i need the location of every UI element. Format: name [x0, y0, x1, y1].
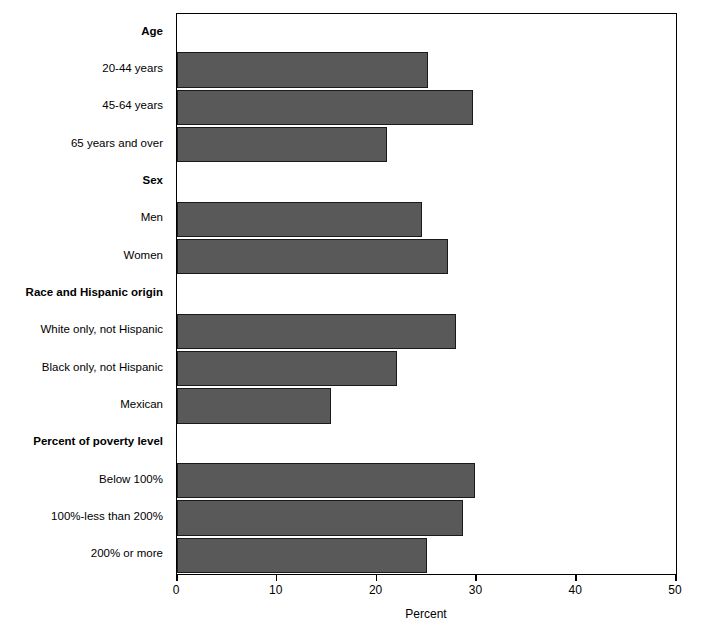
x-axis-tick — [475, 574, 477, 581]
bar — [177, 202, 422, 237]
group-header-label: Race and Hispanic origin — [0, 286, 168, 299]
category-label: Mexican — [0, 398, 168, 411]
plot-area — [176, 13, 677, 575]
category-label: 65 years and over — [0, 137, 168, 150]
category-label: Black only, not Hispanic — [0, 361, 168, 374]
category-label: 45-64 years — [0, 99, 168, 112]
bar — [177, 538, 427, 573]
group-header-label: Percent of poverty level — [0, 435, 168, 448]
x-axis-tick-label: 50 — [655, 583, 695, 597]
bar — [177, 463, 475, 498]
x-axis-tick — [675, 574, 677, 581]
group-header-label: Sex — [0, 174, 168, 187]
bar — [177, 500, 463, 535]
bar — [177, 52, 428, 87]
x-axis-tick — [376, 574, 378, 581]
bar — [177, 127, 387, 162]
bar — [177, 239, 448, 274]
group-header-label: Age — [0, 25, 168, 38]
x-axis-tick-label: 10 — [256, 583, 296, 597]
x-axis-tick-label: 30 — [455, 583, 495, 597]
bar — [177, 314, 456, 349]
x-axis-title: Percent — [176, 607, 676, 621]
bar — [177, 351, 397, 386]
x-axis-tick-label: 20 — [356, 583, 396, 597]
category-label: White only, not Hispanic — [0, 323, 168, 336]
bar-chart: Age20-44 years45-64 years65 years and ov… — [0, 0, 701, 638]
bar — [177, 388, 331, 423]
category-label: Women — [0, 249, 168, 262]
category-label: 100%-less than 200% — [0, 510, 168, 523]
x-axis: Percent 01020304050 — [176, 574, 676, 634]
bar — [177, 90, 473, 125]
x-axis-tick-label: 0 — [156, 583, 196, 597]
x-axis-tick — [276, 574, 278, 581]
category-label: Below 100% — [0, 473, 168, 486]
category-label-column: Age20-44 years45-64 years65 years and ov… — [0, 13, 168, 573]
x-axis-tick-label: 40 — [555, 583, 595, 597]
x-axis-tick — [575, 574, 577, 581]
category-label: Men — [0, 211, 168, 224]
category-label: 20-44 years — [0, 62, 168, 75]
x-axis-tick — [176, 574, 178, 581]
bars-container — [177, 14, 676, 574]
category-label: 200% or more — [0, 547, 168, 560]
